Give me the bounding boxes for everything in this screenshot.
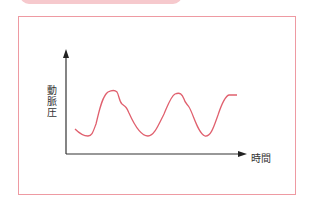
x-axis-arrow-icon bbox=[238, 151, 247, 157]
y-axis-label: 動脈圧 bbox=[46, 85, 58, 118]
x-axis-label: 時間 bbox=[251, 150, 271, 165]
arterial-pressure-curve bbox=[75, 91, 237, 137]
y-axis-arrow-icon bbox=[63, 49, 69, 58]
